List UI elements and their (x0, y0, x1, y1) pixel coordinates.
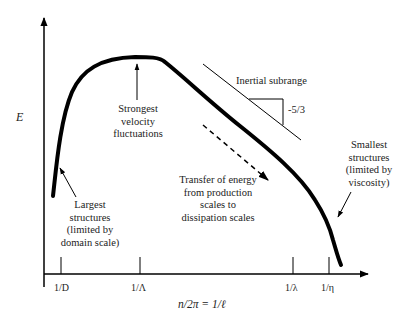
largest-arrow (60, 168, 76, 197)
smallest-line-1: Smallest (339, 139, 399, 152)
largest-line-4: domain scale) (58, 237, 122, 250)
energy-transfer-arrow (203, 125, 268, 180)
smallest-line-4: viscosity) (339, 177, 399, 190)
smallest-label: Smallest structures (limited by viscosit… (339, 139, 399, 189)
transfer-label: Transfer of energy from production scale… (163, 174, 273, 224)
slope-label: -5/3 (288, 104, 305, 117)
smallest-line-2: structures (339, 152, 399, 165)
slope-triangle (249, 99, 283, 125)
strongest-line-2: velocity (108, 116, 168, 129)
largest-line-1: Largest (58, 199, 122, 212)
largest-line-2: structures (58, 212, 122, 225)
largest-line-3: (limited by (58, 224, 122, 237)
smallest-arrow (338, 192, 351, 217)
transfer-line-4: dissipation scales (163, 212, 273, 225)
strongest-label: Strongest velocity fluctuations (108, 103, 168, 141)
transfer-line-3: scales to (163, 199, 273, 212)
tick-label-1-Lambda: 1/Λ (131, 282, 146, 293)
strongest-line-3: fluctuations (108, 128, 168, 141)
tick-label-1-eta: 1/η (321, 282, 334, 293)
transfer-line-2: from production (163, 187, 273, 200)
transfer-line-1: Transfer of energy (163, 174, 273, 187)
x-axis-label: n/2π = 1/ℓ (178, 298, 226, 311)
y-axis-label: E (16, 111, 23, 124)
tick-label-1-D: 1/D (54, 282, 69, 293)
strongest-line-1: Strongest (108, 103, 168, 116)
inertial-subrange-label: Inertial subrange (236, 75, 307, 88)
largest-label: Largest structures (limited by domain sc… (58, 199, 122, 249)
tick-label-1-lambda: 1/λ (285, 282, 298, 293)
smallest-line-3: (limited by (339, 164, 399, 177)
